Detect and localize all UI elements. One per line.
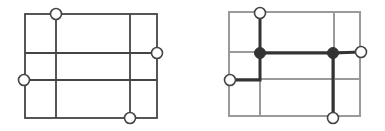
grid-outer-border: [229, 12, 360, 116]
diagram-canvas: [0, 0, 385, 131]
steiner-tree-edge: [260, 13, 361, 53]
grid-outer-border: [25, 14, 157, 118]
terminal-node-icon: [19, 75, 30, 86]
terminal-node-icon: [125, 113, 136, 124]
terminal-node-icon: [225, 75, 236, 86]
terminal-node-icon: [356, 47, 367, 58]
terminal-node-icon: [255, 8, 266, 19]
steiner-junction-icon: [255, 48, 266, 59]
right-grid-steiner-diagram: [225, 8, 367, 124]
terminal-node-icon: [328, 113, 339, 124]
terminal-node-icon: [51, 9, 62, 20]
steiner-junction-icon: [328, 48, 339, 59]
terminal-node-icon: [152, 48, 163, 59]
left-grid-diagram: [19, 9, 163, 124]
